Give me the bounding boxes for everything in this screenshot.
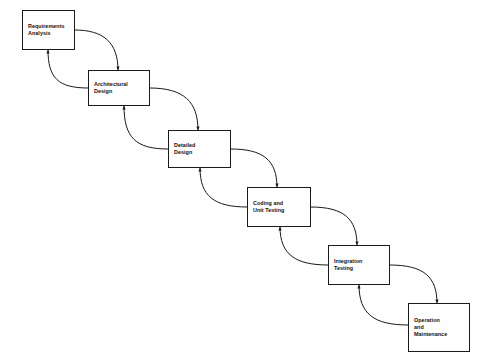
forward-architectural-to-detailed <box>150 88 198 130</box>
phase-label-requirements-analysis: Requirements Analysis <box>28 23 65 37</box>
waterfall-diagram-canvas: Requirements AnalysisArchitectural Desig… <box>0 0 482 363</box>
phase-box-integration-testing: Integration Testing <box>328 245 390 285</box>
feedback-coding-to-detailed <box>200 168 247 207</box>
phase-box-operation-and-maintenance: Operation and Maintenance <box>408 303 470 352</box>
feedback-operation-to-integration <box>359 285 408 325</box>
feedback-detailed-to-architectural <box>124 106 168 149</box>
phase-label-detailed-design: Detailed Design <box>174 142 195 156</box>
feedback-architectural-to-requirements <box>48 50 88 88</box>
phase-label-architectural-design: Architectural Design <box>94 81 128 95</box>
phase-box-architectural-design: Architectural Design <box>88 70 150 106</box>
phase-box-coding-and-unit-testing: Coding and Unit Testing <box>247 187 311 227</box>
feedback-integration-to-coding <box>280 227 328 265</box>
phase-label-integration-testing: Integration Testing <box>334 258 362 272</box>
phase-label-operation-and-maintenance: Operation and Maintenance <box>414 317 447 339</box>
forward-detailed-to-coding <box>231 149 277 187</box>
forward-integration-to-operation <box>390 265 437 303</box>
phase-box-detailed-design: Detailed Design <box>168 130 231 168</box>
forward-coding-to-integration <box>311 207 357 245</box>
phase-label-coding-and-unit-testing: Coding and Unit Testing <box>253 200 284 214</box>
phase-box-requirements-analysis: Requirements Analysis <box>22 10 75 50</box>
forward-requirements-to-architectural <box>75 30 118 70</box>
